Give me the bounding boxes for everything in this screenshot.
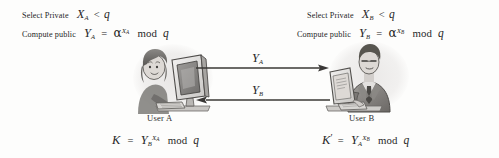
man-at-computer-illustration [324, 38, 410, 116]
left-key-equals: = [128, 135, 134, 146]
right-select-private-prefix: Select Private [307, 11, 354, 20]
left-public-base: α [114, 26, 122, 40]
left-user-caption: User A [147, 113, 172, 123]
left-select-private-prefix: Select Private [22, 11, 69, 20]
right-shared-key-formula: K′ = YAXB mod q [322, 130, 409, 148]
left-key-exponent: XA [152, 134, 160, 142]
left-private-modulus: q [104, 8, 110, 20]
left-public-subscript: A [91, 33, 95, 40]
left-key-mod-text: mod [168, 134, 188, 146]
left-key-base-variable: Y [141, 133, 148, 147]
right-key-equals: = [338, 135, 344, 146]
right-user-caption: User B [349, 113, 374, 123]
left-public-equals: = [101, 28, 107, 39]
top-arrow-label: YA [252, 48, 263, 66]
top-arrow-label-subscript: A [259, 58, 263, 65]
left-private-relation: < [94, 9, 100, 20]
left-select-private-line: Select Private XA < q [22, 4, 110, 22]
right-key-mod-text: mod [378, 134, 398, 146]
diffie-hellman-diagram: Select Private XA < q Compute public YA … [0, 0, 499, 158]
right-key-modulus: q [404, 134, 410, 146]
left-shared-key-formula: K = YBXA mod q [112, 130, 199, 148]
left-key-symbol: K [112, 133, 120, 147]
left-private-subscript: A [85, 14, 89, 21]
right-key-exponent: XB [362, 134, 370, 142]
right-public-exponent-subscript: B [401, 29, 404, 35]
right-private-relation: < [379, 9, 385, 20]
right-select-private-line: Select Private XB < q [307, 4, 395, 22]
left-key-exponent-subscript: A [156, 136, 159, 142]
bottom-arrow-label: YB [252, 80, 263, 98]
right-public-exponent: XB [397, 27, 405, 35]
left-public-modulus: q [163, 27, 169, 39]
right-key-exponent-subscript: B [367, 136, 370, 142]
left-private-variable: X [77, 7, 85, 21]
top-arrow-label-variable: Y [252, 51, 259, 65]
bottom-arrow-label-subscript: B [259, 90, 263, 97]
right-public-mod-text: mod [413, 27, 433, 39]
left-key-modulus: q [193, 134, 199, 146]
right-key-base-variable: Y [351, 133, 358, 147]
left-public-mod-text: mod [138, 27, 158, 39]
right-private-variable: X [362, 7, 370, 21]
left-compute-public-prefix: Compute public [22, 30, 76, 39]
left-public-exponent: XA [122, 27, 130, 35]
bottom-arrow-label-variable: Y [252, 83, 259, 97]
right-private-subscript: B [370, 14, 374, 21]
right-key-prime: ′ [330, 132, 332, 143]
left-compute-public-line: Compute public YA = αXA mod q [22, 23, 169, 41]
left-public-exponent-subscript: A [126, 29, 129, 35]
right-public-modulus: q [438, 27, 444, 39]
right-private-modulus: q [389, 8, 395, 20]
